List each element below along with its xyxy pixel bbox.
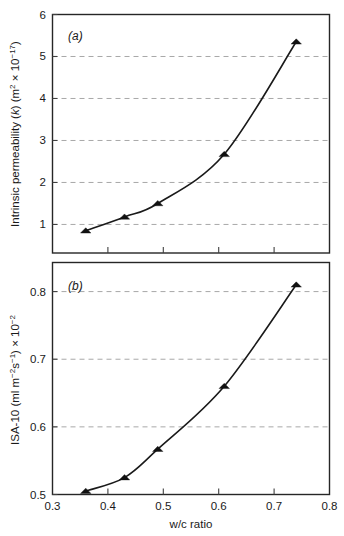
x-axis: 0.30.40.50.60.70.8 w/c ratio — [45, 500, 338, 530]
panel-a-ylabel-main: Intrinsic permeability ( — [9, 115, 21, 227]
y-tick-label: 0.8 — [30, 286, 46, 298]
panel-b-y-axis-title: ISA-10 (ml m−2s−1) × 10−2 — [8, 314, 21, 445]
y-tick-label: 2 — [40, 176, 46, 188]
panel-a-curve — [86, 42, 297, 231]
panel-b-ylabel-close: ) × 10 — [9, 324, 21, 354]
data-point-marker — [219, 151, 229, 156]
y-tick-label: 0.5 — [30, 489, 46, 501]
x-tick-label: 0.3 — [45, 500, 61, 512]
x-tick-label: 0.4 — [100, 500, 117, 512]
svg-text:Intrinsic permeability (k) (m2: Intrinsic permeability (k) (m2 × 10−17) — [8, 41, 21, 227]
panel-a: 123456 (a) Intrinsic permeability (k) (m… — [8, 9, 330, 254]
panel-b-tag: (b) — [68, 279, 83, 293]
panel-a-ylabel-mid: ) (m — [9, 89, 21, 109]
panel-a-y-axis-title: Intrinsic permeability (k) (m2 × 10−17) — [8, 41, 21, 227]
data-point-marker — [119, 214, 129, 219]
data-point-marker — [291, 282, 301, 287]
x-tick-labels: 0.30.40.50.60.70.8 — [45, 500, 338, 512]
panel-a-gridlines — [53, 56, 330, 224]
x-tick-label: 0.8 — [322, 500, 338, 512]
panel-b-ylabel-sup3: −2 — [8, 314, 17, 324]
panel-a-ylabel-close: ) — [9, 41, 21, 45]
x-tick-label: 0.7 — [266, 500, 282, 512]
panel-b-x-ticks — [108, 489, 274, 495]
y-tick-label: 1 — [40, 218, 46, 230]
figure-container: 123456 (a) Intrinsic permeability (k) (m… — [0, 0, 344, 536]
panel-a-data-markers — [81, 39, 302, 233]
panel-b-curve — [86, 285, 297, 491]
panel-a-y-tick-labels: 123456 — [40, 9, 47, 231]
panel-b-y-ticks — [53, 292, 58, 495]
x-tick-label: 0.6 — [211, 500, 227, 512]
x-axis-title: w/c ratio — [169, 518, 213, 530]
panel-a-x-ticks — [108, 247, 274, 253]
y-tick-label: 4 — [40, 92, 47, 104]
y-tick-label: 5 — [40, 50, 46, 62]
panel-b-gridlines — [53, 292, 330, 427]
panel-b-ylabel-main: ISA-10 (ml m — [9, 378, 21, 445]
data-point-marker — [153, 446, 163, 451]
panel-a-tag: (a) — [68, 29, 83, 43]
panel-a-y-ticks — [53, 15, 58, 225]
data-point-marker — [219, 383, 229, 388]
data-point-marker — [291, 39, 301, 44]
y-tick-label: 6 — [40, 9, 46, 21]
y-tick-label: 3 — [40, 134, 46, 146]
x-tick-label: 0.5 — [155, 500, 171, 512]
y-tick-label: 0.6 — [30, 421, 46, 433]
two-panel-line-chart: 123456 (a) Intrinsic permeability (k) (m… — [0, 0, 344, 536]
panel-a-ylabel-times: × 10 — [9, 59, 21, 85]
panel-b: 0.50.60.70.8 (b) ISA-10 (ml m−2s−1) × 10… — [8, 263, 330, 501]
y-tick-label: 0.7 — [30, 353, 46, 365]
panel-b-y-tick-labels: 0.50.60.70.8 — [30, 286, 46, 501]
svg-text:ISA-10 (ml m−2s−1) × 10−2: ISA-10 (ml m−2s−1) × 10−2 — [8, 314, 21, 445]
panel-a-ylabel-sup2: −17 — [8, 44, 17, 58]
data-point-marker — [81, 228, 91, 233]
panel-a-frame — [53, 15, 330, 254]
panel-b-data-markers — [81, 282, 302, 494]
